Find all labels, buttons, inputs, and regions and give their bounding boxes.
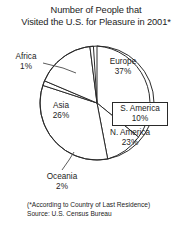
slice-label-oceania: Oceania 2% xyxy=(38,172,86,191)
slice-label-n-america-name: N. America xyxy=(110,128,150,137)
slice-label-s-america-name: S. America xyxy=(120,104,160,113)
footnote-source: Source: U.S. Census Bureau xyxy=(27,210,192,219)
slice-label-asia: Asia 26% xyxy=(42,101,80,120)
slice-label-europe-pct: 37% xyxy=(100,67,146,77)
slice-label-africa-name: Africa xyxy=(16,52,37,61)
slice-label-asia-name: Asia xyxy=(53,101,69,110)
slice-label-s-america-pct: 10% xyxy=(113,114,167,124)
pie-chart-figure: Number of People that Visited the U.S. f… xyxy=(0,0,192,232)
slice-label-europe-name: Europe xyxy=(110,57,136,66)
slice-label-oceania-pct: 2% xyxy=(38,182,86,192)
slice-label-oceania-name: Oceania xyxy=(47,172,78,181)
oceania-leader-line xyxy=(62,152,74,170)
footnote-methodology: (*According to Country of Last Residence… xyxy=(27,201,192,210)
slice-label-asia-pct: 26% xyxy=(42,111,80,121)
slice-label-europe: Europe 37% xyxy=(100,57,146,76)
slice-label-n-america: N. America 23% xyxy=(101,128,159,147)
slice-label-s-america: S. America 10% xyxy=(112,102,168,126)
slice-label-africa-pct: 1% xyxy=(6,62,46,72)
slice-label-africa: Africa 1% xyxy=(6,52,46,71)
slice-label-n-america-pct: 23% xyxy=(101,138,159,148)
